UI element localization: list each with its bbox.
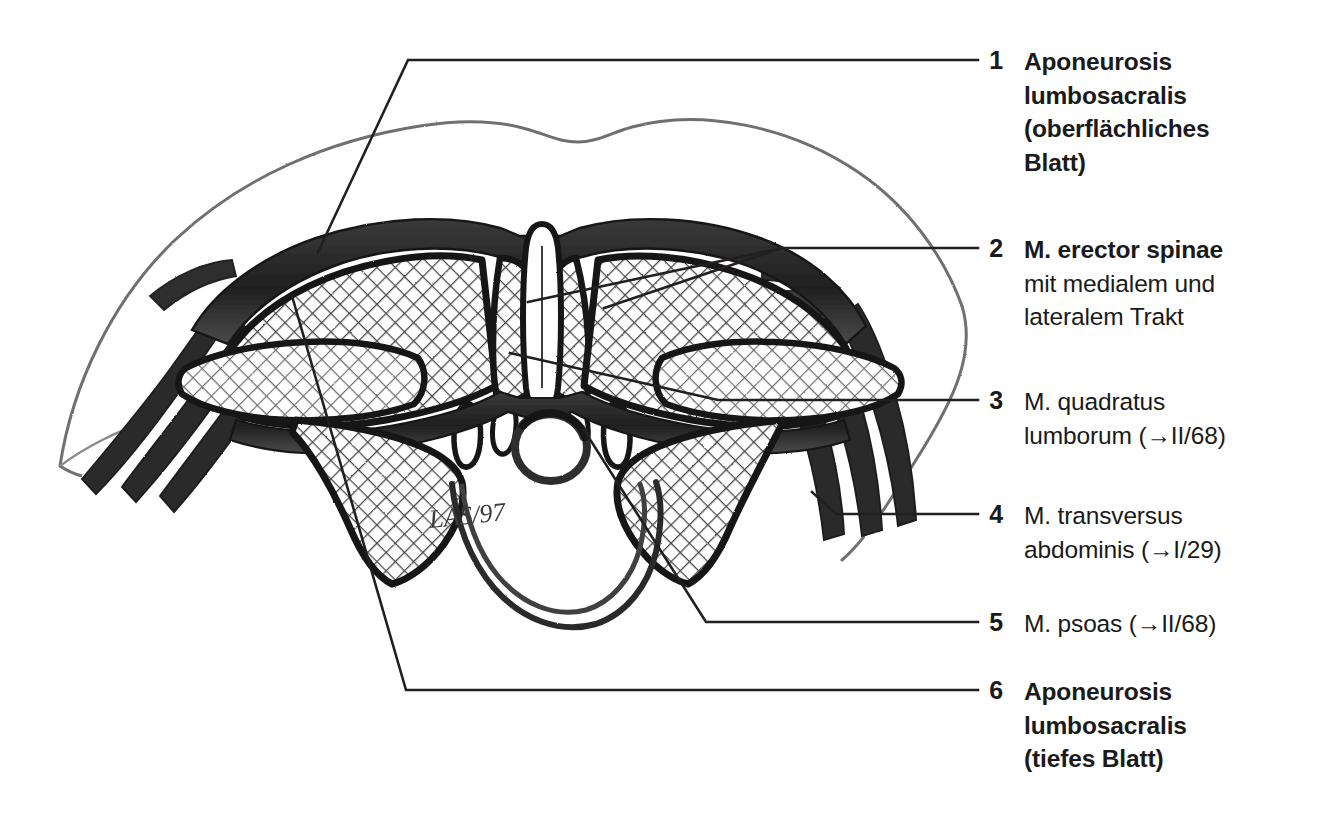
legend-label-2-tail: mit medialem und lateralem Trakt xyxy=(1024,270,1215,331)
legend-entry-1[interactable]: 1 Aponeurosis lumbosacralis (oberflächli… xyxy=(975,45,1210,179)
legend-number-2: 2 xyxy=(975,233,1003,264)
legend-entry-2[interactable]: 2 M. erector spinae mit medialem und lat… xyxy=(975,233,1223,334)
legend-entry-3[interactable]: 3 M. quadratus lumborum (→II/68) xyxy=(975,385,1226,452)
legend-entry-5[interactable]: 5 M. psoas (→II/68) xyxy=(975,607,1216,641)
legend-number-1: 1 xyxy=(975,45,1003,76)
legend-entry-4[interactable]: 4 M. transversus abdominis (→I/29) xyxy=(975,499,1222,566)
legend-label-3: M. quadratus lumborum (→II/68) xyxy=(1024,385,1226,452)
legend-label-4: M. transversus abdominis (→I/29) xyxy=(1024,499,1222,566)
legend-number-5: 5 xyxy=(975,607,1003,638)
legend-label-1: Aponeurosis lumbosacralis (oberflächlich… xyxy=(1024,45,1210,179)
figure-root: LAS/97 1 Aponeurosis lumbosacralis (ober… xyxy=(0,0,1318,836)
legend-label-2: M. erector spinae mit medialem und later… xyxy=(1024,233,1223,334)
processus-spinosus xyxy=(523,224,561,412)
legend-number-6: 6 xyxy=(975,675,1003,706)
legend-entry-6[interactable]: 6 Aponeurosis lumbosacralis (tiefes Blat… xyxy=(975,675,1187,776)
legend-number-4: 4 xyxy=(975,499,1003,530)
legend-number-3: 3 xyxy=(975,385,1003,416)
legend-label-5: M. psoas (→II/68) xyxy=(1024,607,1216,641)
legend-label-6: Aponeurosis lumbosacralis (tiefes Blatt) xyxy=(1024,675,1187,776)
legend-label-2-head: M. erector spinae xyxy=(1024,236,1223,263)
